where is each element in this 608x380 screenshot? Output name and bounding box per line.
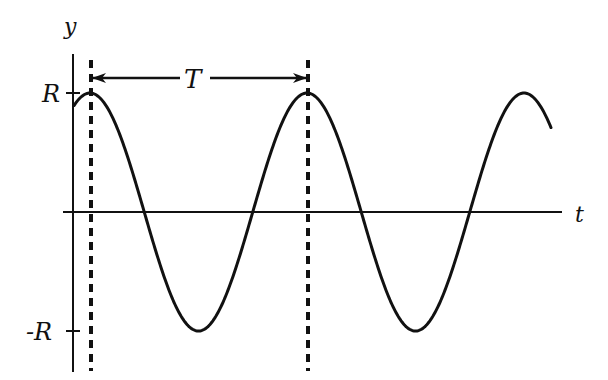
tick-label-neg-R: -R (26, 318, 52, 346)
tick-label-R: R (41, 80, 60, 108)
wave-diagram: y t R -R T (0, 0, 608, 380)
x-axis-label: t (575, 202, 584, 227)
period-label: T (184, 64, 203, 94)
y-axis-label: y (63, 14, 77, 39)
